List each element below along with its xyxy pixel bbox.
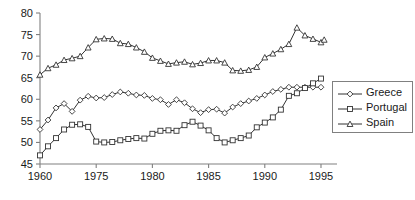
data-point-marker [270,115,275,120]
data-point-marker [254,96,260,102]
line-chart: 4550556065707580 19601975198019851990199… [0,0,415,200]
x-tick-label: 1995 [309,170,333,182]
data-point-marker [150,131,155,136]
legend-item-portugal[interactable]: Portugal [337,99,407,114]
series-layer [37,25,327,158]
data-point-marker [45,65,51,70]
x-tick-label: 1985 [196,170,220,182]
data-point-marker [53,62,59,67]
x-tick-label: 1975 [84,170,108,182]
data-point-marker [294,84,300,90]
legend-marker-diamond-icon [337,86,363,98]
data-point-marker [158,128,163,133]
data-point-marker [101,95,107,101]
y-axis: 4550556065707580 [21,7,40,170]
data-point-marker [93,95,99,101]
x-tick-label: 1990 [253,170,277,182]
data-point-marker [62,127,67,132]
y-tick-label: 45 [21,158,33,170]
data-point-marker [214,136,219,141]
legend-marker-square-icon [337,101,363,113]
data-point-marker [109,92,115,98]
x-axis: 196019751980198519901995 [28,164,337,182]
data-point-marker [318,84,324,90]
data-point-marker [182,123,187,128]
data-point-marker [206,107,212,113]
y-tick-label: 60 [21,93,33,105]
data-point-marker [78,122,83,127]
data-point-marker [166,102,172,108]
data-point-marker [310,36,316,41]
data-point-marker [133,92,139,98]
data-point-marker [158,58,164,63]
data-point-marker [214,106,220,112]
data-point-marker [149,96,155,102]
data-point-marker [262,120,267,125]
data-point-marker [278,86,284,92]
data-point-marker [254,125,259,130]
data-point-marker [86,124,91,129]
data-point-marker [230,138,235,143]
data-point-marker [141,49,147,54]
data-point-marker [174,128,179,133]
data-point-marker [38,153,43,158]
data-point-marker [110,139,115,144]
data-point-marker [206,128,211,133]
y-tick-label: 65 [21,72,33,84]
chart-legend: GreecePortugalSpain [332,81,413,133]
data-point-marker [126,136,131,141]
x-tick-label: 1960 [28,170,52,182]
data-point-marker [133,45,139,50]
data-point-marker [53,105,59,111]
data-point-marker [198,123,203,128]
data-point-marker [347,91,353,97]
series-spain [37,25,327,77]
data-point-marker [134,136,139,141]
data-point-marker [294,25,300,30]
data-point-marker [246,133,251,138]
data-point-marker [294,91,299,96]
data-point-marker [94,139,99,144]
data-point-marker [246,98,252,104]
x-tick-label: 1980 [140,170,164,182]
data-point-marker [166,128,171,133]
legend-marker-triangle-icon [337,116,363,128]
data-point-marker [222,140,227,145]
y-tick-label: 50 [21,136,33,148]
data-point-marker [118,138,123,143]
data-point-marker [262,92,268,98]
data-point-marker [238,136,243,141]
data-point-marker [286,84,292,90]
y-tick-label: 75 [21,29,33,41]
y-tick-label: 55 [21,115,33,127]
data-point-marker [102,140,107,145]
data-point-marker [141,93,147,99]
legend-label: Spain [366,116,394,128]
data-point-marker [270,51,276,56]
data-point-marker [117,89,123,95]
data-point-marker [85,93,91,99]
data-point-marker [262,55,268,60]
data-point-marker [54,136,59,141]
data-point-marker [142,136,147,141]
legend-item-spain[interactable]: Spain [337,114,407,129]
legend-label: Greece [366,86,402,98]
data-point-marker [158,97,164,103]
y-tick-label: 70 [21,50,33,62]
data-point-marker [310,81,315,86]
data-point-marker [198,110,204,116]
legend-item-greece[interactable]: Greece [337,84,407,99]
data-point-marker [348,106,353,111]
data-point-marker [278,107,283,112]
data-point-marker [286,93,291,98]
data-point-marker [286,41,292,46]
data-point-marker [190,119,195,124]
data-point-marker [302,86,307,91]
data-point-marker [174,97,180,103]
data-point-marker [278,46,284,51]
data-point-marker [238,101,244,107]
legend-label: Portugal [366,101,407,113]
data-point-marker [318,76,323,81]
data-point-marker [270,89,276,95]
data-point-marker [46,144,51,149]
